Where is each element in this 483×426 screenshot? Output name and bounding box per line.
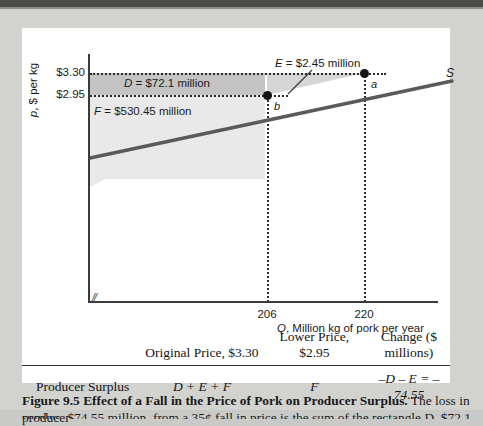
data-point-a-label: a: [371, 78, 377, 90]
region-E-label: E = $2.45 million: [275, 57, 360, 69]
x-tick-220: 220: [344, 308, 384, 320]
data-point-b: [263, 91, 272, 100]
table-header-row: Original Price, $3.30 Lower Price, $2.95…: [22, 326, 450, 366]
region-E-value: = $2.45 million: [283, 57, 361, 69]
scan-top-band: [0, 0, 483, 7]
y-axis: [88, 54, 90, 302]
table-header-blank: [22, 326, 143, 366]
x-tick-206: 206: [247, 308, 287, 320]
region-D-label: D = $72.1 million: [124, 77, 210, 89]
caption-number: Figure 9.5: [22, 393, 80, 408]
region-F-label: F = $530.45 million: [94, 105, 192, 117]
region-D-value: = $72.1 million: [132, 77, 210, 89]
figure-panel: // a b $3.30 $2.95 206 220 p, $ per kg Q…: [22, 28, 450, 383]
data-point-a: [360, 69, 369, 78]
leader-line-E: [284, 68, 324, 98]
region-F-value: = $530.45 million: [101, 105, 191, 117]
table-header-change: Change ($ millions): [368, 326, 450, 366]
axis-break-mark: //: [92, 291, 96, 303]
region-F-symbol: F: [94, 105, 101, 117]
y-axis-title-rest: , $ per kg: [27, 63, 39, 111]
data-point-b-label: b: [274, 100, 280, 112]
textbook-page: // a b $3.30 $2.95 206 220 p, $ per kg Q…: [0, 9, 483, 410]
y-axis-title: p, $ per kg: [27, 35, 39, 145]
figure-caption-line2: surplus, $74.55 million, from a 35¢ fall…: [22, 410, 474, 419]
y-axis-symbol: p: [27, 111, 39, 117]
region-E-symbol: E: [275, 57, 283, 69]
supply-curve-label: S: [446, 66, 454, 80]
caption-title: Effect of a Fall in the Price of Pork on…: [83, 393, 408, 408]
supply-curve-chart: // a b $3.30 $2.95 206 220 p, $ per kg Q…: [22, 28, 450, 328]
table-header-lower-price: Lower Price, $2.95: [261, 326, 368, 366]
table-header-original-price: Original Price, $3.30: [143, 326, 260, 366]
x-axis: [88, 301, 438, 303]
